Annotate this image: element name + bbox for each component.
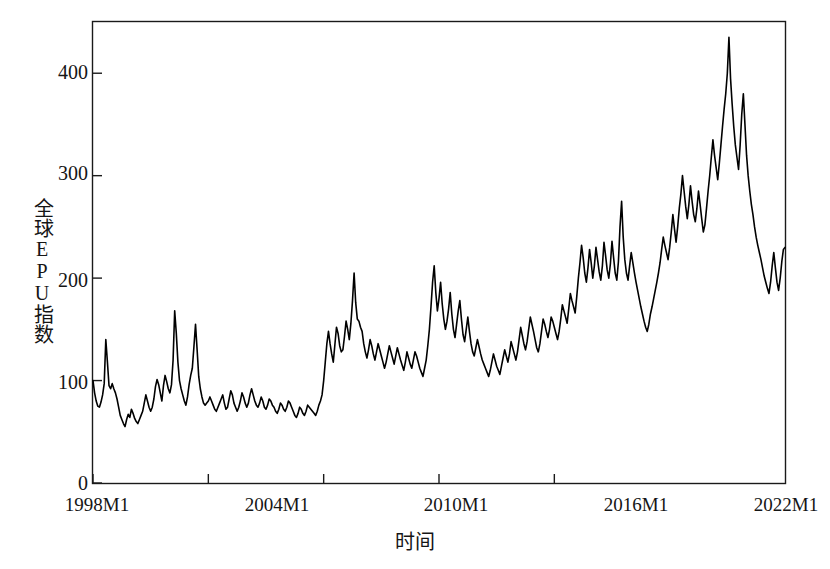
- epu-index-line: [93, 37, 785, 426]
- x-tick-marks: [93, 474, 554, 483]
- plot-area: [0, 0, 830, 569]
- plot-frame: [93, 22, 786, 484]
- y-tick-marks: [93, 73, 102, 483]
- chart-figure: 全球EPU指数 时间 0 100 200 300 400 1998M1 2004…: [0, 0, 830, 569]
